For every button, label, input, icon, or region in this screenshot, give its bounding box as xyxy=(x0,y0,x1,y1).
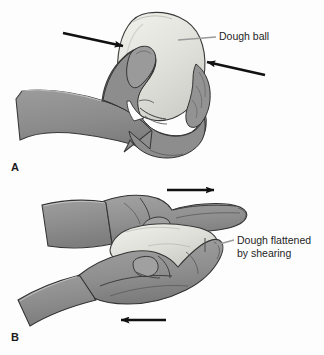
dough-flattened-label-line1: Dough flattened xyxy=(237,234,311,246)
figure-artwork xyxy=(0,0,324,355)
compression-arrow-left xyxy=(63,33,123,46)
panel-b-artwork xyxy=(18,190,247,326)
panel-a-letter: A xyxy=(11,161,19,173)
compression-arrow-right xyxy=(207,62,265,75)
forearm-shape-b-upper xyxy=(42,200,112,247)
dough-flattened-label-line2: by shearing xyxy=(237,247,311,260)
dough-ball-label: Dough ball xyxy=(219,30,269,43)
dough-flattened-label: Dough flattened by shearing xyxy=(237,234,311,259)
panel-b-letter: B xyxy=(11,331,19,343)
dough-ball-shearing-figure: A B Dough ball Dough flattened by sheari… xyxy=(0,0,324,355)
